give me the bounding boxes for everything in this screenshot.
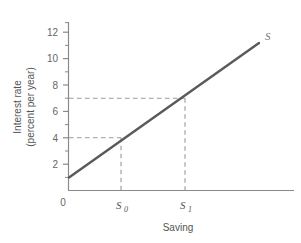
y-tick-label-2: 2 <box>52 159 58 170</box>
origin-label: 0 <box>60 197 66 208</box>
y-tick-label-12: 12 <box>47 27 59 38</box>
chart-canvas: 12 10 8 6 4 2 0 S S 0 S 1 Saving <box>0 0 301 243</box>
y-axis-title-line1: Interest rate <box>12 80 23 134</box>
x-point-label-s0-base: S <box>116 199 122 211</box>
curve-label-s: S <box>265 30 271 42</box>
x-point-label-s1: S 1 <box>180 199 192 214</box>
x-axis-title: Saving <box>163 222 194 233</box>
saving-supply-chart: 12 10 8 6 4 2 0 S S 0 S 1 Saving <box>0 0 301 243</box>
saving-supply-curve <box>69 43 259 177</box>
y-tick-label-10: 10 <box>47 53 59 64</box>
y-tick-label-4: 4 <box>52 133 58 144</box>
y-tick-label-8: 8 <box>52 80 58 91</box>
y-axis-title-line2: (percent per year) <box>25 67 36 146</box>
x-point-label-s0-sub: 0 <box>124 205 128 214</box>
x-point-label-s1-base: S <box>180 199 186 211</box>
y-tick-label-6: 6 <box>52 106 58 117</box>
x-point-label-s0: S 0 <box>116 199 128 214</box>
x-point-label-s1-sub: 1 <box>188 205 192 214</box>
